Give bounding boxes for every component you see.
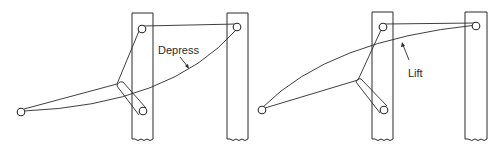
arrow-head-icon <box>185 64 189 69</box>
panel-depress: Depress <box>17 13 248 141</box>
pulley-top-right-right <box>472 22 480 30</box>
pulley-top-left <box>138 25 146 33</box>
depress-curve <box>24 30 236 111</box>
lift-curve <box>263 25 476 107</box>
top-cord-right <box>385 23 476 24</box>
pulley-bottom <box>139 107 147 115</box>
ring-far-left-right <box>258 106 266 114</box>
post-right-2 <box>465 12 487 141</box>
pulley-top-left-right <box>379 23 387 31</box>
diagram-canvas: Depress Lift <box>0 0 501 150</box>
cord-ring-to-lever <box>24 84 117 109</box>
cord-ring-to-lever-right <box>265 80 358 108</box>
top-cord <box>143 24 237 26</box>
lift-pointer <box>403 45 409 60</box>
lift-label: Lift <box>408 67 423 79</box>
arrow-head-icon <box>401 42 405 47</box>
depress-label: Depress <box>158 44 199 56</box>
panel-lift: Lift <box>258 12 487 141</box>
ring-far-left <box>17 108 25 116</box>
pulley-top-right <box>233 23 241 31</box>
pulley-bottom-right <box>380 106 388 114</box>
post-left-2 <box>227 13 248 141</box>
